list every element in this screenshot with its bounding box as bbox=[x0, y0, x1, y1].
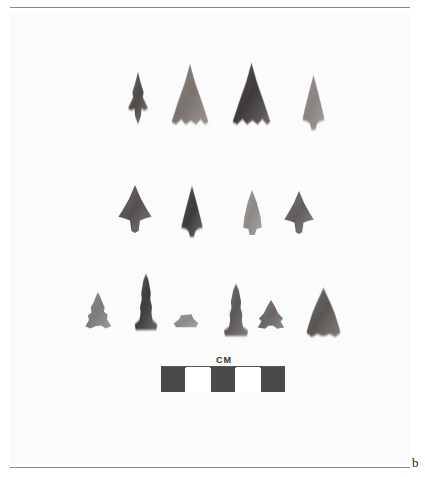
arrowhead-1-3 bbox=[229, 63, 274, 127]
arrowhead-2-3 bbox=[239, 190, 266, 235]
scale-segment-3 bbox=[211, 367, 235, 392]
top-rule bbox=[10, 7, 410, 8]
scale-segment-2 bbox=[186, 367, 210, 392]
arrowhead-3-4 bbox=[220, 284, 252, 336]
scale-segment-4 bbox=[236, 367, 260, 392]
arrowhead-3-1 bbox=[83, 292, 113, 330]
arrowhead-2-4 bbox=[283, 191, 315, 234]
arrowhead-1-1 bbox=[120, 72, 156, 124]
arrowhead-3-3 bbox=[172, 312, 200, 328]
arrowhead-1-2 bbox=[168, 64, 212, 127]
arrowhead-3-2 bbox=[131, 274, 161, 330]
arrowhead-2-2 bbox=[177, 186, 207, 237]
arrowhead-3-5 bbox=[256, 300, 286, 330]
scale-segment-1 bbox=[161, 367, 185, 392]
scale-unit-label: CM bbox=[216, 355, 232, 365]
arrowhead-1-4 bbox=[298, 75, 329, 130]
arrowhead-3-6 bbox=[305, 288, 342, 338]
bottom-rule bbox=[10, 467, 410, 468]
scale-segment-5 bbox=[261, 367, 285, 392]
arrowhead-2-1 bbox=[117, 185, 153, 233]
panel-label: b bbox=[412, 455, 419, 471]
scale-bar bbox=[161, 366, 285, 392]
